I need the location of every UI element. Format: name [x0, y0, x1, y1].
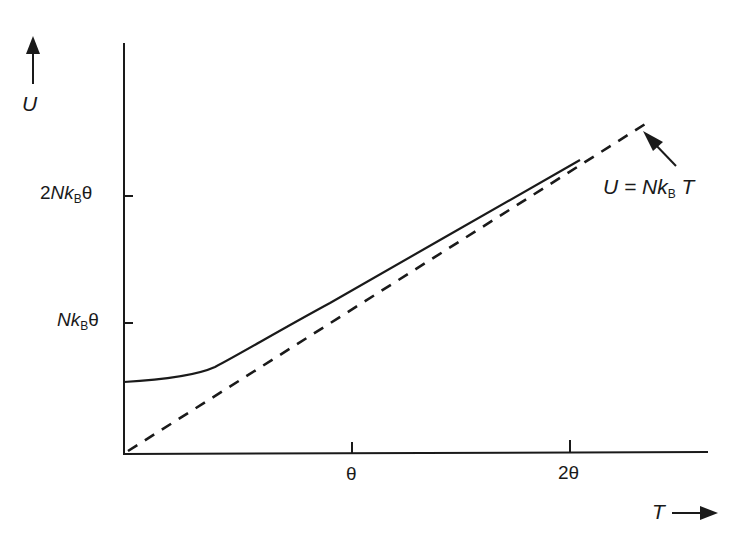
annotation-end: T: [676, 175, 695, 198]
y-tick-2-sub: B: [74, 192, 82, 206]
y-tick-label-1: NkBθ: [57, 309, 99, 333]
y-tick-2-end: θ: [82, 182, 93, 203]
y-tick-2-prefix: 2: [40, 182, 51, 203]
x-tick-label-2: 2θ: [558, 462, 579, 484]
y-axis-label: U: [22, 92, 37, 116]
x-axis: [123, 452, 708, 454]
annotation-sub: B: [668, 187, 676, 201]
energy-curve: [124, 160, 580, 382]
chart-canvas: [0, 0, 744, 548]
x-axis-label: T: [652, 500, 665, 524]
y-arrow-head-icon: [26, 36, 40, 54]
x-tick-label-1: θ: [346, 463, 357, 485]
y-tick-label-2: 2NkBθ: [40, 182, 92, 206]
annotation-label: U = NkB T: [603, 175, 694, 201]
y-tick-2-main: Nk: [51, 182, 74, 203]
classical-limit-line: [128, 121, 650, 451]
x-arrow-head-icon: [700, 506, 718, 520]
y-tick-1-end: θ: [88, 309, 99, 330]
annotation-main: U = Nk: [603, 175, 668, 198]
y-tick-1-main: Nk: [57, 309, 80, 330]
